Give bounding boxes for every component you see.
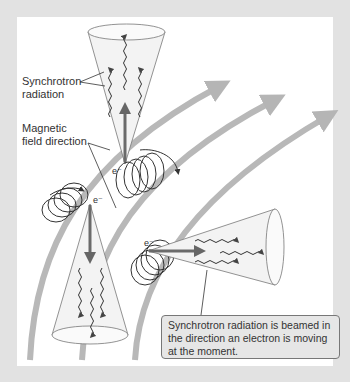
cone-right: [148, 209, 284, 285]
cone-top: [88, 24, 165, 164]
electron-label-right: e⁻: [144, 238, 154, 248]
callout-box: Synchrotron radiation is beamed in the d…: [161, 315, 340, 359]
label-synchrotron-radiation: Synchrotron radiation: [22, 75, 81, 101]
label-magnetic-field-direction: Magnetic field direction: [22, 122, 87, 148]
electron-label-top: e⁻: [112, 166, 122, 176]
electron-label-left: e⁻: [93, 195, 103, 205]
figure: Synchrotron radiation Magnetic field dir…: [0, 0, 350, 382]
